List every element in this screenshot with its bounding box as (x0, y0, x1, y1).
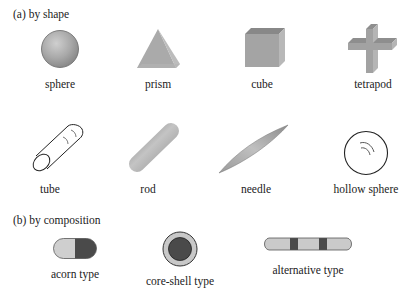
prism-label: prism (145, 78, 171, 90)
prism-figure (136, 28, 182, 70)
tube-figure (30, 123, 86, 175)
needle-label: needle (241, 183, 271, 195)
core-shell-figure (162, 231, 198, 267)
sphere-figure (40, 29, 80, 69)
cube-figure (244, 27, 286, 69)
acorn-figure (53, 238, 97, 259)
section-a-title: (a) by shape (13, 8, 69, 20)
rod-label: rod (140, 183, 155, 195)
sphere-label: sphere (45, 78, 75, 90)
tetrapod-label: tetrapod (354, 78, 392, 90)
hollow-sphere-figure (343, 130, 389, 176)
core-shell-label: core-shell type (146, 275, 214, 287)
hollow-sphere-label: hollow sphere (334, 183, 399, 195)
tube-label: tube (40, 183, 60, 195)
acorn-label: acorn type (51, 268, 99, 280)
section-b-title: (b) by composition (13, 214, 101, 226)
alternative-figure (263, 237, 353, 251)
tetrapod-figure (347, 23, 399, 75)
rod-figure (127, 122, 181, 174)
alternative-label: alternative type (272, 264, 343, 276)
needle-figure (218, 123, 290, 175)
cube-label: cube (251, 78, 273, 90)
